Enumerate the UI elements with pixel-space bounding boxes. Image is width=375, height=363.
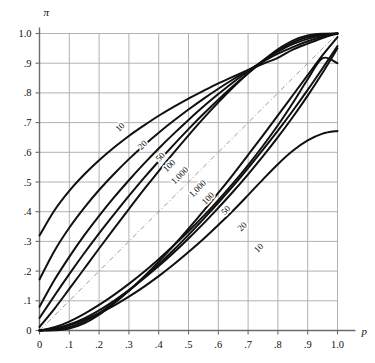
x-axis-label: p xyxy=(361,325,368,337)
y-tick-label: .6 xyxy=(24,147,32,158)
y-axis-label: π xyxy=(44,6,50,18)
y-tick-label: .3 xyxy=(24,236,32,247)
y-tick-label: .5 xyxy=(24,177,32,188)
y-tick-label: .1 xyxy=(24,295,32,306)
x-tick-label: 0 xyxy=(37,339,42,350)
y-tick-label: 1.0 xyxy=(18,28,31,39)
chart-figure: 0.1.2.3.4.5.6.7.8.91.00.1.2.3.4.5.6.7.8.… xyxy=(0,0,375,363)
x-tick-label: 1.0 xyxy=(331,339,344,350)
x-tick-label: .5 xyxy=(185,339,193,350)
y-tick-label: .2 xyxy=(24,266,32,277)
chart-background xyxy=(0,0,375,363)
chart-svg: 0.1.2.3.4.5.6.7.8.91.00.1.2.3.4.5.6.7.8.… xyxy=(0,0,375,363)
y-tick-label: .9 xyxy=(24,58,32,69)
y-tick-label: .8 xyxy=(24,87,32,98)
x-tick-label: .7 xyxy=(244,339,252,350)
x-tick-label: .6 xyxy=(214,339,222,350)
x-tick-label: .3 xyxy=(125,339,133,350)
x-tick-label: .1 xyxy=(65,339,73,350)
y-tick-label: .7 xyxy=(24,117,32,128)
x-tick-label: .8 xyxy=(274,339,282,350)
x-tick-label: .9 xyxy=(304,339,312,350)
y-tick-label: 0 xyxy=(26,325,31,336)
y-tick-label: .4 xyxy=(24,206,33,217)
x-tick-label: .4 xyxy=(155,339,164,350)
x-tick-label: .2 xyxy=(95,339,103,350)
